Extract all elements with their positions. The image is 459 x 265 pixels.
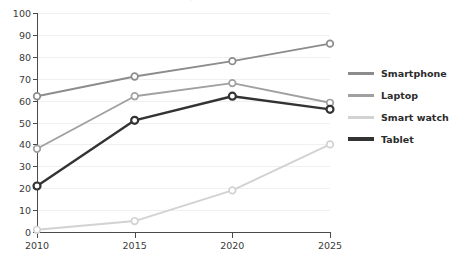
series-line xyxy=(37,83,330,149)
series-line xyxy=(37,96,330,186)
legend-item-laptop[interactable]: Laptop xyxy=(348,84,459,106)
series-tablet xyxy=(34,93,334,190)
data-point-marker xyxy=(229,80,236,87)
legend-item-tablet[interactable]: Tablet xyxy=(348,128,459,150)
legend-label: Laptop xyxy=(381,90,418,101)
series-line xyxy=(37,44,330,97)
data-point-marker xyxy=(34,145,41,152)
legend-item-smart-watch[interactable]: Smart watch xyxy=(348,106,459,128)
data-point-marker xyxy=(131,218,138,225)
line-chart: Device ownership (%) 0102030405060708090… xyxy=(0,0,459,265)
legend-swatch xyxy=(348,137,374,141)
legend-swatch xyxy=(348,94,374,97)
chart-legend: SmartphoneLaptopSmart watchTablet xyxy=(348,62,459,150)
data-point-marker xyxy=(131,73,138,80)
legend-swatch xyxy=(348,72,374,75)
data-point-marker xyxy=(131,117,138,124)
legend-item-smartphone[interactable]: Smartphone xyxy=(348,62,459,84)
data-point-marker xyxy=(34,227,41,234)
series-smartphone xyxy=(34,40,334,99)
legend-swatch xyxy=(348,116,374,119)
data-point-marker xyxy=(229,187,236,194)
data-point-marker xyxy=(229,58,236,65)
legend-label: Smartphone xyxy=(381,68,447,79)
series-smart-watch xyxy=(34,141,334,233)
data-point-marker xyxy=(131,93,138,100)
data-point-marker xyxy=(34,183,41,190)
data-point-marker xyxy=(327,141,334,148)
series-laptop xyxy=(34,80,334,152)
data-point-marker xyxy=(327,106,334,113)
data-point-marker xyxy=(229,93,236,100)
data-point-marker xyxy=(327,40,334,47)
legend-label: Tablet xyxy=(381,134,414,145)
legend-label: Smart watch xyxy=(381,112,449,123)
data-point-marker xyxy=(34,93,41,100)
